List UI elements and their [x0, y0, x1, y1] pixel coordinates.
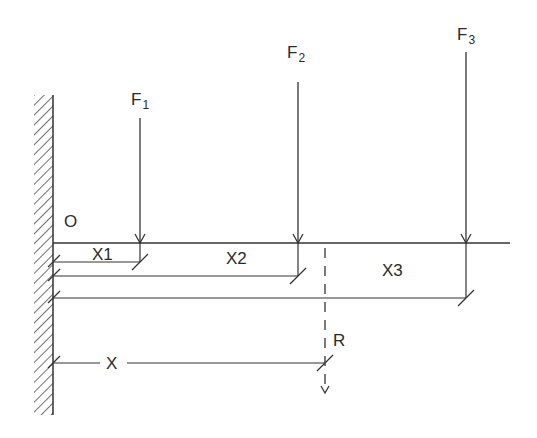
force-f3-subscript: 3 [468, 33, 475, 47]
dimension-x2 [48, 243, 306, 284]
force-f2-arrow [293, 82, 303, 243]
dimension-x2-label: X2 [226, 250, 247, 267]
resultant-r-label: R [333, 332, 345, 349]
force-f3-arrow [461, 52, 471, 243]
beam-diagram [0, 0, 537, 438]
force-f3-label: F3 [457, 26, 475, 43]
dimension-x1-label: X1 [92, 246, 113, 263]
force-f2-name: F [287, 43, 297, 62]
force-f1-arrow [135, 118, 145, 243]
dimension-x3-label: X3 [382, 262, 403, 279]
force-f2-subscript: 2 [298, 51, 305, 65]
origin-label: O [64, 213, 77, 230]
force-f2-label: F2 [287, 44, 305, 61]
force-f1-label: F1 [131, 91, 149, 108]
force-f1-name: F [131, 90, 141, 109]
dimension-x [48, 355, 333, 371]
fixed-wall [34, 95, 53, 415]
force-f1-subscript: 1 [142, 98, 149, 112]
resultant-r-arrow [321, 248, 329, 393]
force-f3-name: F [457, 25, 467, 44]
dimension-x-label: X [106, 355, 117, 372]
